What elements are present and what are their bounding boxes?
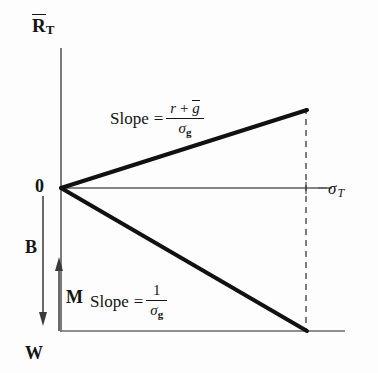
diagram-canvas <box>0 0 378 373</box>
y-axis-label: RT <box>32 14 54 36</box>
upper-slope-equation: Slope = r + g σg <box>110 100 204 139</box>
lower-slope-equation: Slope = 1 σg <box>90 283 167 321</box>
w-label: W <box>25 344 43 362</box>
lower-slope-den-sigma: σ <box>150 302 157 318</box>
b-arrow-head <box>39 312 47 326</box>
lower-slope-equals: = <box>134 292 147 312</box>
upper-slope-word: Slope <box>110 109 154 129</box>
upper-slope-denominator: σg <box>175 119 196 139</box>
origin-label: 0 <box>35 177 44 195</box>
lower-slope-den-subscript: g <box>158 308 164 320</box>
upper-slope-fraction: r + g σg <box>166 100 203 139</box>
upper-slope-num-r: r <box>170 100 176 116</box>
m-label: M <box>66 288 83 306</box>
upper-slope-equals: = <box>154 109 167 129</box>
x-axis-label: σT <box>328 180 344 199</box>
upper-slope-den-subscript: g <box>186 126 192 138</box>
upper-slope-numerator: r + g <box>166 100 203 118</box>
lower-slope-numerator: 1 <box>149 283 165 300</box>
upper-slope-num-gbar: g <box>192 100 200 116</box>
y-axis-label-letter: R <box>32 14 46 35</box>
upper-slope-num-plus: + <box>180 100 188 116</box>
x-axis-label-subscript: T <box>336 186 344 200</box>
lower-slope-denominator: σg <box>146 301 167 321</box>
lower-slope-word: Slope <box>90 292 134 312</box>
b-label: B <box>25 238 37 256</box>
lower-slope-fraction: 1 σg <box>146 283 167 321</box>
y-axis-label-subscript: T <box>46 22 55 37</box>
upper-slope-den-sigma: σ <box>179 120 186 136</box>
